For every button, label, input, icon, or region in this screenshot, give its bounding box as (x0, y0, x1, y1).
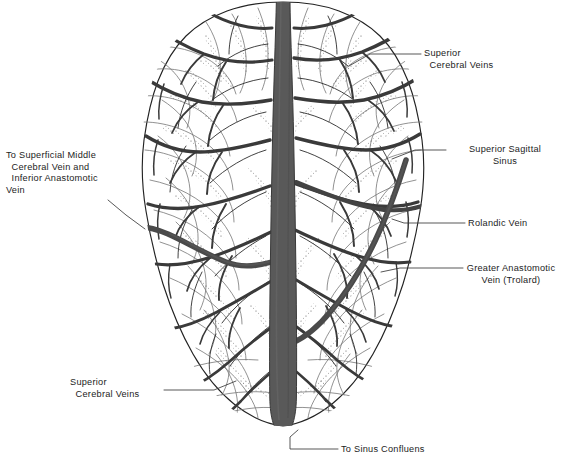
superior-sagittal-sinus-label: Superior Sagittal Sinus (449, 144, 561, 167)
sinus-confluens-label: To Sinus Confluens (341, 444, 425, 456)
superior-cerebral-veins-top-label: Superior Cerebral Veins (424, 48, 493, 71)
superficial-middle-cerebral-vein-label: To Superficial Middle Cerebral Vein and … (6, 150, 98, 196)
leader-sinus-confluens (290, 430, 338, 449)
leader-superficial-middle-cerebral-vein (108, 200, 145, 229)
greater-anastomotic-vein-label: Greater Anastomotic Vein (Trolard) (461, 263, 561, 286)
rolandic-vein-label: Rolandic Vein (468, 218, 527, 230)
superior-cerebral-veins-bottom-label: Superior Cerebral Veins (70, 377, 139, 400)
